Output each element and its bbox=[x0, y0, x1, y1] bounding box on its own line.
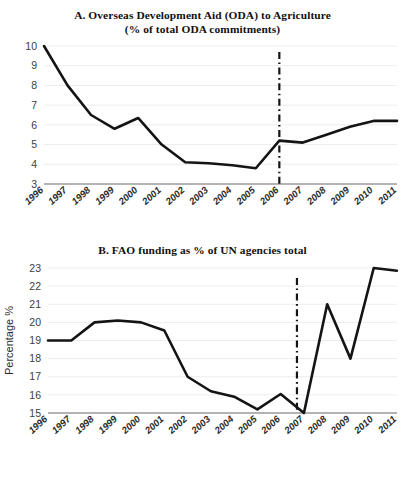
y-axis-tick-label: 5 bbox=[31, 138, 37, 150]
x-axis-tick-label: 2001 bbox=[142, 413, 166, 436]
y-axis-tick-label: 20 bbox=[29, 316, 41, 328]
y-axis-tick-label: 8 bbox=[31, 79, 37, 91]
x-axis-tick-label: 2008 bbox=[304, 184, 328, 208]
x-axis-tick: 2009 bbox=[328, 412, 352, 436]
y-axis-tick-label: 9 bbox=[31, 59, 37, 71]
x-axis-tick: 2003 bbox=[186, 184, 210, 208]
x-axis-tick: 2002 bbox=[165, 412, 189, 436]
y-axis-tick-label: 4 bbox=[31, 158, 37, 170]
x-axis-tick: 2006 bbox=[257, 184, 281, 208]
x-axis-tick-label: 2007 bbox=[281, 412, 305, 436]
x-axis-tick-label: 2001 bbox=[139, 184, 163, 207]
chart-b-title: B. FAO funding as % of UN agencies total bbox=[0, 240, 405, 258]
x-axis-tick: 2008 bbox=[304, 184, 328, 208]
x-axis-tick-label: 2006 bbox=[258, 412, 282, 436]
x-axis-tick-label: 1999 bbox=[96, 412, 120, 435]
x-axis-tick: 2009 bbox=[327, 184, 351, 208]
chart-a-title-line2: (% of total ODA commitments) bbox=[125, 23, 280, 35]
x-axis-tick-label: 2002 bbox=[163, 184, 187, 208]
y-axis-tick-label: 18 bbox=[29, 352, 41, 364]
chart-a-title-line1: A. Overseas Development Aid (ODA) to Agr… bbox=[74, 9, 331, 21]
x-axis-tick: 2008 bbox=[305, 412, 329, 436]
x-axis-tick: 2002 bbox=[163, 184, 187, 208]
x-axis-tick: 1999 bbox=[93, 184, 117, 207]
x-axis-tick: 1998 bbox=[69, 184, 93, 207]
x-axis-tick: 2004 bbox=[212, 412, 236, 436]
x-axis-tick-label: 2007 bbox=[280, 184, 304, 208]
x-axis-tick-label: 1997 bbox=[46, 184, 70, 207]
x-axis-tick-label: 1996 bbox=[22, 184, 46, 207]
chart-a-title: A. Overseas Development Aid (ODA) to Agr… bbox=[0, 0, 405, 36]
chart-a-svg: 3456789101996199719981999200020012002200… bbox=[0, 36, 405, 232]
y-axis-tick-label: 7 bbox=[31, 99, 37, 111]
figure-two-panel-line-charts: A. Overseas Development Aid (ODA) to Agr… bbox=[0, 0, 405, 478]
x-axis-tick-label: 2003 bbox=[186, 184, 210, 208]
y-axis-tick-label: 22 bbox=[29, 279, 41, 291]
chart-panel-a: A. Overseas Development Aid (ODA) to Agr… bbox=[0, 0, 405, 240]
x-axis-tick-label: 1997 bbox=[49, 412, 73, 435]
x-axis-tick: 2000 bbox=[118, 412, 142, 436]
x-axis-tick-label: 2010 bbox=[351, 412, 375, 436]
x-axis-tick: 2005 bbox=[235, 412, 259, 436]
x-axis-tick: 2000 bbox=[116, 184, 140, 208]
x-axis-tick-label: 2010 bbox=[351, 184, 375, 208]
data-series-line bbox=[44, 46, 397, 168]
x-axis-tick: 1996 bbox=[22, 184, 46, 207]
x-axis-tick: 2010 bbox=[351, 412, 375, 436]
y-axis-tick-label: 19 bbox=[29, 334, 41, 346]
chart-b-svg: 1516171819202122231996199719981999200020… bbox=[0, 258, 405, 473]
chart-a-plot-area: 3456789101996199719981999200020012002200… bbox=[0, 36, 405, 232]
x-axis-tick-label: 2005 bbox=[233, 184, 257, 208]
x-axis-tick: 1999 bbox=[96, 412, 120, 435]
x-axis-tick-label: 1998 bbox=[69, 184, 93, 207]
x-axis-tick: 1997 bbox=[49, 412, 73, 435]
x-axis-tick-label: 2009 bbox=[328, 412, 352, 436]
x-axis-tick-label: 2005 bbox=[235, 412, 259, 436]
x-axis-tick-label: 2003 bbox=[188, 412, 212, 436]
x-axis-tick-label: 2002 bbox=[165, 412, 189, 436]
x-axis-tick-label: 1999 bbox=[93, 184, 117, 207]
x-axis-tick-label: 2008 bbox=[305, 412, 329, 436]
x-axis-tick: 2007 bbox=[281, 412, 305, 436]
x-axis-tick: 2006 bbox=[258, 412, 282, 436]
x-axis-tick: 2003 bbox=[188, 412, 212, 436]
x-axis-tick-label: 1998 bbox=[73, 412, 97, 435]
y-axis-tick-label: 16 bbox=[29, 388, 41, 400]
chart-b-plot-area: 1516171819202122231996199719981999200020… bbox=[0, 258, 405, 473]
y-axis-title-text: Percentage % bbox=[3, 305, 15, 374]
y-axis-tick-label: 23 bbox=[29, 261, 41, 273]
x-axis-tick: 2005 bbox=[233, 184, 257, 208]
x-axis-tick: 1998 bbox=[73, 412, 97, 435]
x-axis-tick: 2001 bbox=[142, 413, 166, 436]
x-axis-tick-label: 2004 bbox=[212, 412, 236, 436]
x-axis-tick: 2001 bbox=[139, 184, 163, 207]
x-axis-tick: 2007 bbox=[280, 184, 304, 208]
x-axis-tick-label: 2000 bbox=[116, 184, 140, 208]
x-axis-tick: 2011 bbox=[375, 184, 398, 207]
y-axis-tick-label: 21 bbox=[29, 297, 41, 309]
x-axis-tick-label: 2011 bbox=[375, 184, 398, 207]
y-axis-tick-label: 6 bbox=[31, 119, 37, 131]
y-axis-title: Percentage % bbox=[3, 305, 15, 374]
chart-b-title-line1: B. FAO funding as % of UN agencies total bbox=[98, 244, 307, 256]
y-axis-tick-label: 17 bbox=[29, 370, 41, 382]
x-axis-tick-label: 2006 bbox=[257, 184, 281, 208]
x-axis-tick: 2010 bbox=[351, 184, 375, 208]
y-axis-tick-label: 10 bbox=[25, 40, 37, 52]
x-axis-tick-label: 2009 bbox=[327, 184, 351, 208]
x-axis-tick-label: 2000 bbox=[118, 412, 142, 436]
x-axis-tick: 1997 bbox=[46, 184, 70, 207]
chart-panel-b: B. FAO funding as % of UN agencies total… bbox=[0, 240, 405, 478]
x-axis-tick: 2004 bbox=[210, 184, 234, 208]
x-axis-tick-label: 2011 bbox=[375, 413, 398, 436]
x-axis-tick-label: 2004 bbox=[210, 184, 234, 208]
x-axis-tick: 2011 bbox=[375, 413, 398, 436]
